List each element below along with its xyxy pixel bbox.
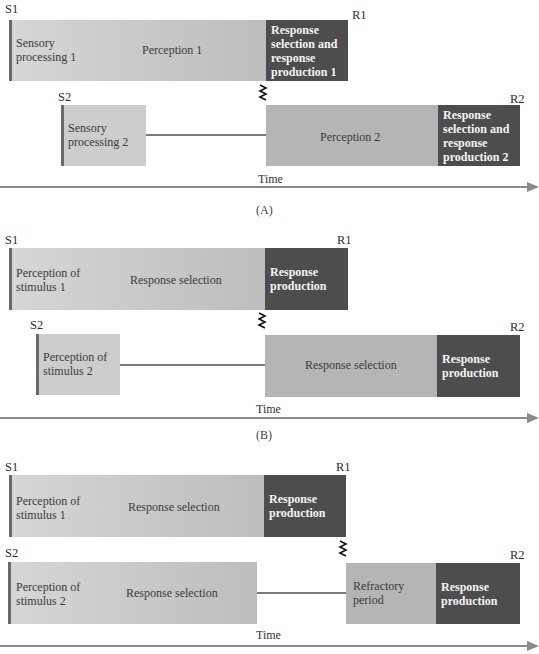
- task1-stage3-box: Response selection and response producti…: [266, 20, 348, 81]
- task2-stage2-label: Response selection: [126, 586, 218, 600]
- response-2-label: R2: [510, 548, 525, 563]
- task1-stage1-label: Sensory processing 1: [16, 36, 96, 64]
- panel-b-caption: (B): [256, 428, 272, 443]
- task1-stage1-label: Perception of stimulus 1: [16, 266, 101, 294]
- task2-stage1-label: Perception of stimulus 2: [16, 580, 101, 608]
- refractory-period-label: Refractory period: [353, 579, 423, 607]
- time-arrow-icon: [527, 641, 539, 651]
- stimulus-2-label: S2: [5, 546, 18, 561]
- time-label: Time: [256, 628, 281, 643]
- time-label: Time: [256, 402, 281, 417]
- response-1-label: R1: [352, 8, 367, 23]
- bottleneck-zigzag-icon: [338, 540, 348, 558]
- task2-stage3-box: Response selection and response producti…: [438, 105, 520, 166]
- task2-stage1-label: Perception of stimulus 2: [43, 350, 118, 378]
- task1-stage3-box: Response production: [265, 248, 348, 310]
- time-arrow-icon: [527, 413, 539, 423]
- response-1-label: R1: [336, 460, 351, 475]
- task2-stage2-label: Response selection: [305, 358, 397, 372]
- waiting-line: [120, 364, 265, 366]
- task1-stage2-label: Perception 1: [142, 43, 202, 57]
- response-2-label: R2: [510, 320, 525, 335]
- stimulus-1-label: S1: [5, 460, 18, 475]
- time-axis: [0, 417, 528, 419]
- task2-stage4-box: Response production: [436, 563, 520, 624]
- time-label: Time: [258, 172, 283, 187]
- task1-stage1-label: Perception of stimulus 1: [16, 494, 101, 522]
- waiting-line: [257, 592, 346, 594]
- stimulus-2-label: S2: [30, 318, 43, 333]
- bottleneck-zigzag-icon: [257, 312, 267, 330]
- waiting-line: [146, 134, 266, 136]
- task1-stage3-box: Response production: [264, 475, 346, 537]
- task2-stage3-box: Response production: [437, 335, 520, 397]
- task2-stage1-label: Sensory processing 2: [68, 121, 142, 149]
- time-arrow-icon: [527, 182, 539, 192]
- stimulus-1-label: S1: [5, 2, 18, 17]
- stimulus-1-label: S1: [5, 233, 18, 248]
- bottleneck-zigzag-icon: [258, 84, 268, 102]
- time-axis: [0, 645, 528, 647]
- time-axis: [0, 186, 528, 188]
- panel-a-caption: (A): [256, 203, 273, 218]
- response-1-label: R1: [337, 233, 352, 248]
- task1-stage2-label: Response selection: [128, 500, 220, 514]
- task2-stage2-label: Perception 2: [320, 130, 380, 144]
- stimulus-2-label: S2: [58, 90, 71, 105]
- task1-stage2-label: Response selection: [130, 273, 222, 287]
